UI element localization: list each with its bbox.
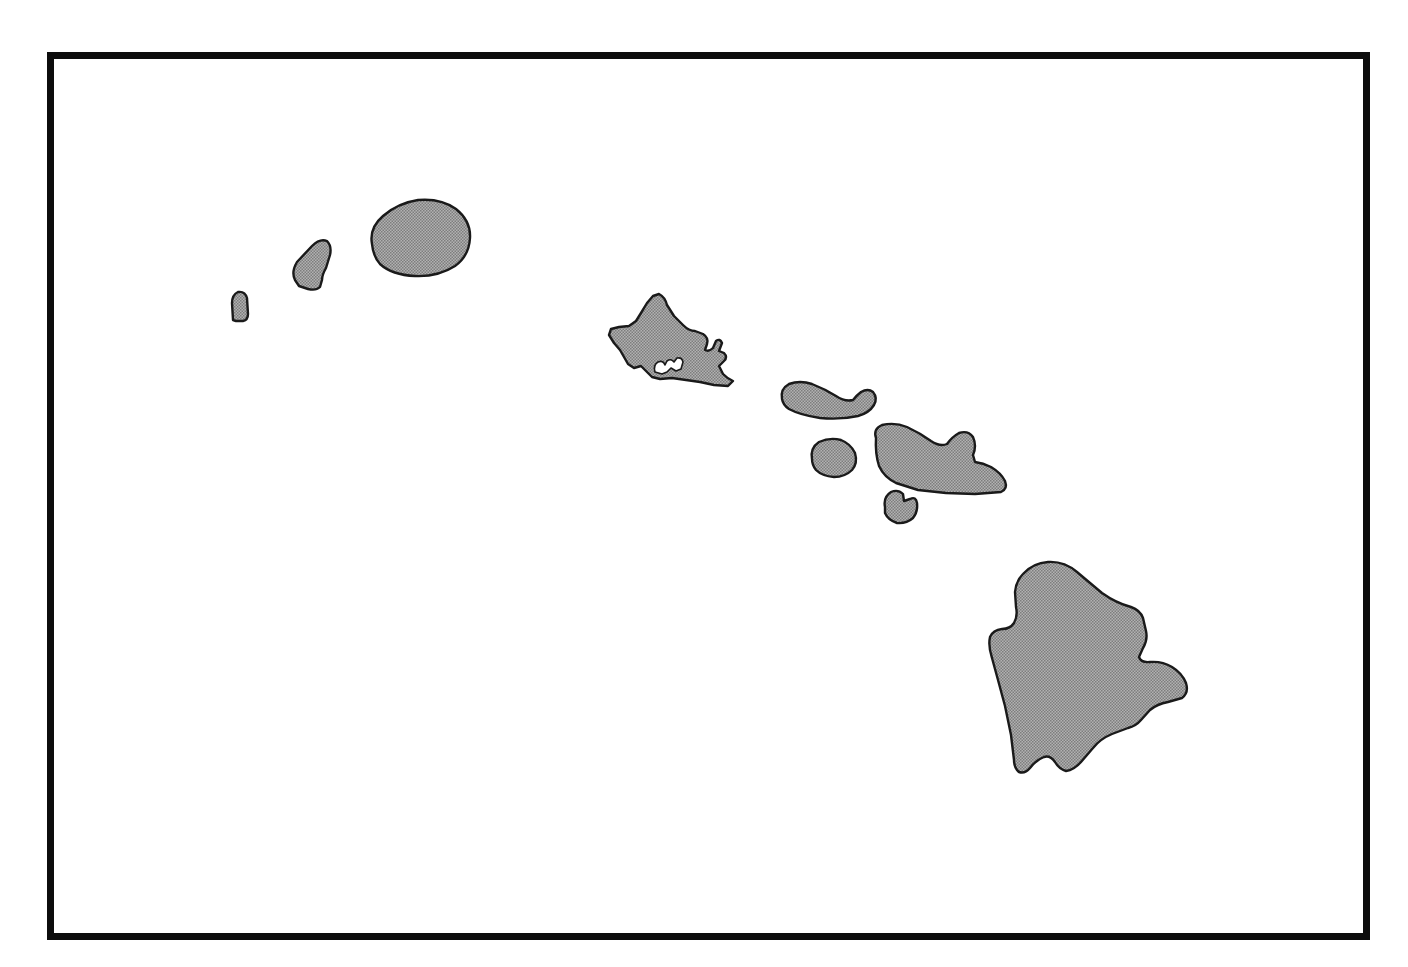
island-kaula[interactable]: [232, 292, 248, 321]
map-svg-canvas: [0, 0, 1408, 967]
hawaii-outline-map-figure: [0, 0, 1408, 967]
map-background: [0, 0, 1408, 967]
island-lanai[interactable]: [812, 439, 856, 477]
